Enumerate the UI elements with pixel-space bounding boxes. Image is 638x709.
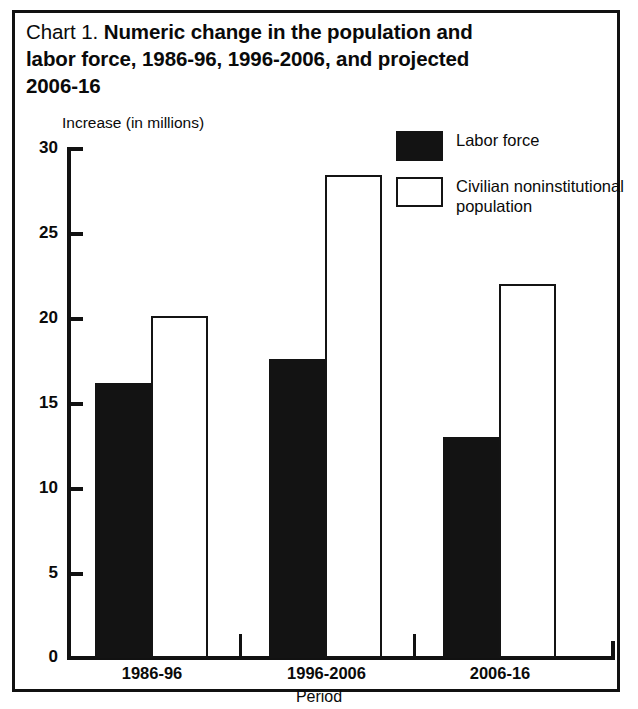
bar-labor-force-1986-96 [95,383,152,658]
chart-legend: Labor force Civilian noninstitutional po… [396,130,626,222]
y-tick-30 [68,147,83,151]
bar-labor-force-1996-2006 [269,359,326,658]
legend-label-labor-force: Labor force [456,130,631,150]
x-category-label-2: 1996-2006 [264,664,389,683]
y-tick-label-10: 10 [16,478,58,498]
chart-page: Chart 1. Numeric change in the populatio… [0,0,638,709]
x-category-label-1: 1986-96 [92,664,212,683]
x-axis-label: Period [0,688,638,706]
bar-population-2006-16 [499,284,556,658]
legend-label-population: Civilian noninstitutional population [456,176,631,216]
bar-labor-force-2006-16 [443,437,500,658]
legend-swatch-filled-icon [396,131,443,161]
y-tick-10 [68,487,83,491]
y-tick-25 [68,232,83,236]
x-tick-separator-1 [239,634,242,657]
bar-population-1986-96 [151,316,208,658]
legend-item-population: Civilian noninstitutional population [396,176,626,210]
y-tick-20 [68,317,83,321]
y-tick-label-15: 15 [16,393,58,413]
y-tick-label-0: 0 [16,647,58,667]
x-category-label-3: 2006-16 [440,664,560,683]
y-tick-label-25: 25 [16,223,58,243]
y-tick-15 [68,402,83,406]
legend-item-labor-force: Labor force [396,130,626,164]
y-tick-label-30: 30 [16,138,58,158]
bar-population-1996-2006 [325,175,382,658]
legend-swatch-hollow-icon [396,177,443,207]
plot-area: 30 25 20 15 10 5 0 1986-96 1996-2006 200… [0,0,638,709]
x-tick-separator-2 [413,634,416,657]
y-tick-5 [68,572,83,576]
x-axis-right-cap [611,641,615,660]
y-tick-label-20: 20 [16,308,58,328]
y-tick-label-5: 5 [16,563,58,583]
